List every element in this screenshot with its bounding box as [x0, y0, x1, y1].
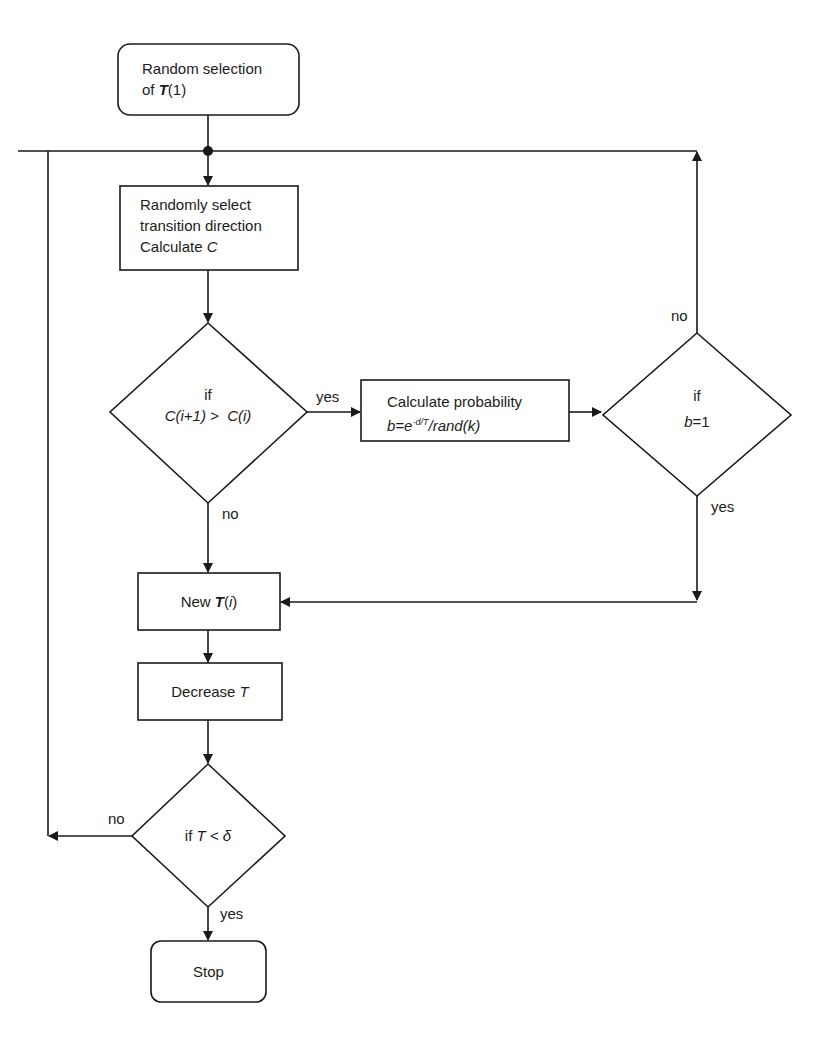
new-t-node: New T(i): [138, 591, 280, 612]
select-line3-prefix: Calculate: [140, 238, 207, 255]
decision-t-rest: < δ: [206, 827, 231, 844]
new-t-close: ): [232, 593, 237, 610]
cost-yes-label: yes: [316, 386, 339, 407]
t-yes-label: yes: [220, 903, 243, 924]
start-line2: of T(1): [142, 79, 262, 100]
start-var-t: T: [159, 81, 168, 98]
start-node: Random selection of T(1): [142, 58, 262, 100]
decrease-prefix: Decrease: [171, 683, 239, 700]
select-line2: transition direction: [140, 215, 262, 236]
new-t-prefix: New: [181, 593, 215, 610]
junction-dot: [203, 146, 213, 156]
decision-t-node: if T < δ: [148, 825, 268, 846]
formula-eq: =e: [395, 417, 412, 434]
decision-b-rest: =1: [693, 413, 710, 430]
decision-cost-node: if C(i+1) > C(i): [128, 384, 288, 426]
probability-node: Calculate probability b=e-d/T/rand(k): [387, 391, 522, 436]
decision-b-line2: b=1: [657, 409, 737, 435]
select-node: Randomly select transition direction Cal…: [140, 194, 262, 257]
formula-rest: /rand(k): [428, 417, 480, 434]
decision-b-var: b: [684, 413, 692, 430]
decrease-node: Decrease T: [138, 681, 282, 702]
start-line2-prefix: of: [142, 81, 159, 98]
decision-b-node: if b=1: [657, 383, 737, 435]
t-no-label: no: [108, 808, 125, 829]
start-line1: Random selection: [142, 58, 262, 79]
start-line2-suffix: (1): [168, 81, 186, 98]
decision-cost-line1: if: [128, 384, 288, 405]
decision-cost-line2: C(i+1) > C(i): [128, 405, 288, 426]
select-line3: Calculate C: [140, 236, 262, 257]
select-var-c: C: [207, 238, 218, 255]
formula-exponent: -d/T: [412, 417, 428, 427]
cost-no-label: no: [222, 503, 239, 524]
decision-t-prefix: if: [185, 827, 197, 844]
decision-b-line1: if: [657, 383, 737, 409]
probability-formula: b=e-d/T/rand(k): [387, 412, 522, 436]
select-line1: Randomly select: [140, 194, 262, 215]
stop-node: Stop: [151, 961, 266, 982]
decision-t-var: T: [197, 827, 206, 844]
decrease-var: T: [240, 683, 249, 700]
b-no-label: no: [671, 305, 688, 326]
b-yes-label: yes: [711, 496, 734, 517]
probability-line1: Calculate probability: [387, 391, 522, 412]
flowchart-canvas: [0, 0, 833, 1046]
new-t-var: T: [215, 593, 224, 610]
